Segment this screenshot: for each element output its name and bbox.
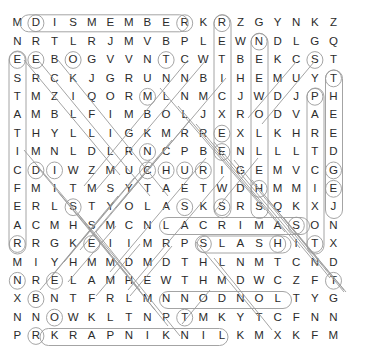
grid-cell[interactable]: S (82, 216, 101, 234)
grid-cell[interactable]: A (82, 327, 101, 345)
grid-cell[interactable]: L (101, 308, 120, 326)
grid-cell[interactable]: M (8, 14, 27, 32)
grid-cell[interactable]: L (64, 124, 83, 142)
grid-cell[interactable]: E (213, 124, 232, 142)
grid-cell[interactable]: N (138, 216, 157, 234)
grid-cell[interactable]: S (250, 198, 269, 216)
grid-cell[interactable]: N (324, 216, 343, 234)
grid-cell[interactable]: I (306, 180, 325, 198)
grid-cell[interactable]: N (138, 308, 157, 326)
grid-cell[interactable]: N (175, 327, 194, 345)
grid-cell[interactable]: U (120, 161, 139, 179)
grid-cell[interactable]: I (101, 235, 120, 253)
grid-cell[interactable]: O (194, 290, 213, 308)
grid-cell[interactable]: A (231, 235, 250, 253)
grid-cell[interactable]: B (45, 106, 64, 124)
grid-cell[interactable]: S (287, 216, 306, 234)
grid-cell[interactable]: T (213, 51, 232, 69)
grid-cell[interactable]: M (101, 161, 120, 179)
grid-cell[interactable]: S (213, 198, 232, 216)
grid-cell[interactable]: T (324, 51, 343, 69)
grid-cell[interactable]: R (82, 32, 101, 50)
grid-cell[interactable]: O (157, 106, 176, 124)
grid-cell[interactable]: M (82, 180, 101, 198)
grid-cell[interactable]: J (287, 88, 306, 106)
grid-cell[interactable]: N (8, 308, 27, 326)
grid-cell[interactable]: N (287, 14, 306, 32)
grid-cell[interactable]: E (175, 180, 194, 198)
grid-cell[interactable]: N (324, 308, 343, 326)
grid-cell[interactable]: L (268, 290, 287, 308)
grid-cell[interactable]: A (8, 106, 27, 124)
grid-cell[interactable]: C (268, 271, 287, 289)
grid-cell[interactable]: X (213, 106, 232, 124)
grid-cell[interactable]: N (138, 51, 157, 69)
grid-cell[interactable]: M (194, 88, 213, 106)
grid-cell[interactable]: X (231, 124, 250, 142)
grid-cell[interactable]: I (8, 143, 27, 161)
grid-cell[interactable]: S (64, 198, 83, 216)
grid-cell[interactable]: A (175, 216, 194, 234)
grid-cell[interactable]: M (45, 216, 64, 234)
grid-cell[interactable]: M (27, 106, 46, 124)
grid-cell[interactable]: M (101, 271, 120, 289)
grid-cell[interactable]: X (324, 235, 343, 253)
grid-cell[interactable]: D (324, 253, 343, 271)
grid-cell[interactable]: J (231, 88, 250, 106)
grid-cell[interactable]: M (268, 180, 287, 198)
grid-cell[interactable]: D (120, 253, 139, 271)
grid-cell[interactable]: S (8, 69, 27, 87)
grid-cell[interactable]: N (250, 32, 269, 50)
grid-cell[interactable]: V (287, 161, 306, 179)
grid-cell[interactable]: H (27, 124, 46, 142)
grid-cell[interactable]: P (306, 88, 325, 106)
grid-cell[interactable]: L (213, 235, 232, 253)
grid-cell[interactable]: B (138, 14, 157, 32)
grid-cell[interactable]: H (287, 124, 306, 142)
grid-cell[interactable]: A (306, 106, 325, 124)
grid-cell[interactable]: H (231, 69, 250, 87)
grid-cell[interactable]: G (231, 161, 250, 179)
grid-cell[interactable]: N (157, 290, 176, 308)
grid-cell[interactable]: L (250, 124, 269, 142)
grid-cell[interactable]: R (157, 235, 176, 253)
grid-cell[interactable]: E (250, 161, 269, 179)
grid-cell[interactable]: F (82, 106, 101, 124)
grid-cell[interactable]: H (64, 253, 83, 271)
grid-cell[interactable]: M (250, 253, 269, 271)
grid-cell[interactable]: G (82, 51, 101, 69)
grid-cell[interactable]: E (324, 106, 343, 124)
grid-cell[interactable]: U (287, 69, 306, 87)
grid-cell[interactable]: Z (45, 88, 64, 106)
grid-cell[interactable]: R (231, 198, 250, 216)
grid-cell[interactable]: D (213, 290, 232, 308)
grid-cell[interactable]: D (27, 161, 46, 179)
grid-cell[interactable]: M (324, 327, 343, 345)
grid-cell[interactable]: R (213, 216, 232, 234)
grid-cell[interactable]: M (82, 14, 101, 32)
grid-cell[interactable]: T (194, 180, 213, 198)
grid-cell[interactable]: K (64, 69, 83, 87)
grid-cell[interactable]: N (45, 290, 64, 308)
grid-cell[interactable]: S (101, 180, 120, 198)
grid-cell[interactable]: P (101, 327, 120, 345)
grid-cell[interactable]: L (157, 88, 176, 106)
grid-cell[interactable]: A (8, 216, 27, 234)
grid-cell[interactable]: Y (231, 308, 250, 326)
grid-cell[interactable]: D (268, 88, 287, 106)
grid-cell[interactable]: L (101, 143, 120, 161)
grid-cell[interactable]: A (157, 180, 176, 198)
grid-cell[interactable]: W (250, 88, 269, 106)
grid-cell[interactable]: Y (306, 69, 325, 87)
grid-cell[interactable]: L (64, 143, 83, 161)
grid-cell[interactable]: N (175, 69, 194, 87)
grid-cell[interactable]: G (120, 124, 139, 142)
grid-cell[interactable]: E (324, 180, 343, 198)
grid-cell[interactable]: E (157, 14, 176, 32)
grid-cell[interactable]: X (306, 198, 325, 216)
grid-cell[interactable]: B (27, 290, 46, 308)
grid-cell[interactable]: G (101, 69, 120, 87)
grid-cell[interactable]: C (268, 308, 287, 326)
grid-cell[interactable]: D (27, 14, 46, 32)
grid-cell[interactable]: H (64, 216, 83, 234)
